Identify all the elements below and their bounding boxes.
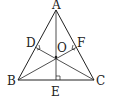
label-b: B bbox=[7, 74, 16, 88]
label-a: A bbox=[51, 0, 61, 12]
right-angle-mark-e bbox=[56, 76, 60, 80]
label-c: C bbox=[96, 74, 105, 88]
orthocenter-point bbox=[55, 56, 58, 59]
label-e: E bbox=[51, 85, 60, 99]
triangle-diagram: A D O F B C E bbox=[0, 0, 113, 101]
right-angle-mark-d bbox=[37, 45, 40, 50]
label-o: O bbox=[57, 41, 67, 55]
right-angle-mark-f bbox=[72, 45, 75, 50]
label-f: F bbox=[77, 36, 85, 50]
label-d: D bbox=[26, 36, 36, 50]
